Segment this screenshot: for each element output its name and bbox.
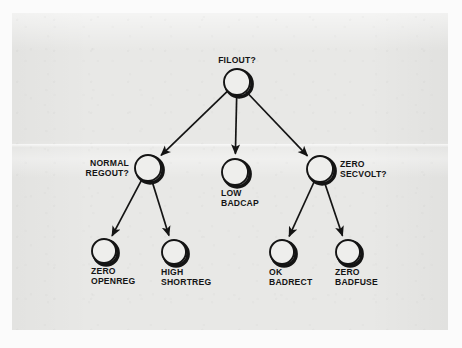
node-root[interactable] <box>224 69 252 97</box>
label-line: SECVOLT? <box>340 169 387 179</box>
node-label-zero-openreg: ZEROOPENREG <box>91 266 135 286</box>
label-line: BADCAP <box>221 198 259 208</box>
label-line: ZERO <box>91 266 116 276</box>
label-line: OPENREG <box>91 276 135 286</box>
label-line: HIGH <box>161 267 183 277</box>
node-high-shortreg[interactable] <box>162 240 188 266</box>
node-label-zero-secvolt: ZEROSECVOLT? <box>340 159 387 179</box>
node-label-ok-badrect: OKBADRECT <box>269 267 313 287</box>
node-zero-secvolt[interactable] <box>307 156 335 184</box>
figure-page: FILOUT?NORMALREGOUT?LOWBADCAPZEROSECVOLT… <box>0 0 462 348</box>
edge-normal-regout-to-high-shortreg <box>152 181 169 236</box>
edge-normal-regout-to-zero-openreg <box>112 180 142 236</box>
label-line: OK <box>269 267 283 277</box>
node-zero-badfuse[interactable] <box>336 240 362 266</box>
node-ok-badrect[interactable] <box>270 240 296 266</box>
node-label-zero-badfuse: ZEROBADFUSE <box>335 267 378 287</box>
label-line: FILOUT? <box>218 55 256 65</box>
node-label-root: FILOUT? <box>218 55 256 65</box>
edge-zero-secvolt-to-ok-badrect <box>289 181 314 236</box>
label-line: BADFUSE <box>335 277 378 287</box>
node-label-high-shortreg: HIGHSHORTREG <box>161 267 211 287</box>
label-line: REGOUT? <box>86 168 129 178</box>
label-line: ZERO <box>340 159 365 169</box>
label-line: LOW <box>221 188 242 198</box>
node-zero-openreg[interactable] <box>92 239 118 265</box>
node-normal-regout[interactable] <box>135 155 163 183</box>
decision-tree-diagram: FILOUT?NORMALREGOUT?LOWBADCAPZEROSECVOLT… <box>0 0 462 348</box>
nodes-layer <box>92 69 362 266</box>
edge-root-to-low-badcap <box>235 96 236 154</box>
label-line: ZERO <box>335 267 360 277</box>
node-label-normal-regout: NORMALREGOUT? <box>86 158 129 178</box>
label-line: NORMAL <box>90 158 129 168</box>
label-line: BADRECT <box>269 277 313 287</box>
edge-root-to-normal-regout <box>161 91 227 155</box>
edge-zero-secvolt-to-zero-badfuse <box>324 182 342 236</box>
label-line: SHORTREG <box>161 277 211 287</box>
node-low-badcap[interactable] <box>222 159 250 187</box>
edge-root-to-zero-secvolt <box>246 92 307 156</box>
node-label-low-badcap: LOWBADCAP <box>221 188 259 208</box>
